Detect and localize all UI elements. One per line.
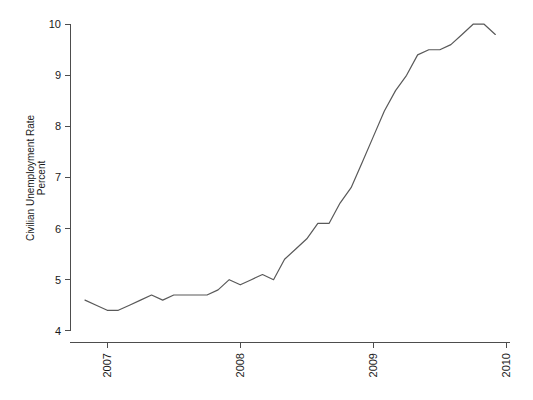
chart-figure: 45678910 2007200820092010 Civilian Unemp… — [0, 0, 533, 400]
y-tick-label: 6 — [55, 223, 61, 235]
y-tick-label: 5 — [55, 274, 61, 286]
plot-area-background — [70, 14, 513, 342]
y-tick-label: 10 — [49, 18, 61, 30]
y-tick-label: 9 — [55, 69, 61, 81]
x-tick-label: 2010 — [500, 353, 512, 377]
y-tick-label: 4 — [55, 325, 61, 337]
y-axis-title-line2: Percent — [36, 161, 47, 196]
y-axis-title-line1: Civilian Unemployment Rate — [25, 114, 36, 241]
unemployment-line-chart: 45678910 2007200820092010 Civilian Unemp… — [0, 0, 533, 400]
x-tick-label: 2009 — [367, 353, 379, 377]
x-tick-label: 2007 — [101, 353, 113, 377]
x-tick-label: 2008 — [234, 353, 246, 377]
y-tick-label: 8 — [55, 120, 61, 132]
y-tick-label: 7 — [55, 171, 61, 183]
